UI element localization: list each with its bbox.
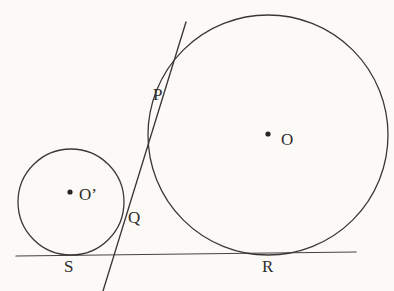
geometry-figure-canvas: P Q S R O O’ (0, 0, 394, 291)
center-label-O-prime: O’ (79, 186, 97, 203)
point-label-Q: Q (128, 209, 140, 226)
geometry-drawing (0, 0, 394, 291)
point-label-R: R (262, 258, 273, 275)
center-label-O: O (281, 131, 293, 148)
point-label-S: S (64, 258, 73, 275)
point-label-P: P (153, 86, 162, 103)
figure-background (0, 0, 394, 291)
center-dot-O (265, 131, 270, 136)
center-dot-O-prime (67, 189, 72, 194)
